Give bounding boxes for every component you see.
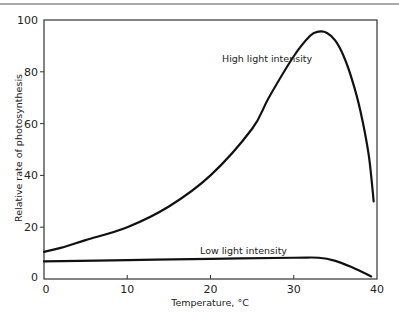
low-light-curve (44, 257, 371, 276)
x-tick-label: 10 (120, 283, 134, 296)
y-tick-label: 60 (24, 118, 38, 131)
plot-border (44, 20, 377, 279)
data-lines (44, 31, 374, 276)
photosynthesis-chart: 010203040020406080100 High light intensi… (0, 0, 399, 315)
low-light-label: Low light intensity (200, 245, 287, 256)
y-tick-label: 80 (24, 66, 38, 79)
y-tick-label: 40 (24, 169, 38, 182)
y-tick-label: 0 (31, 271, 38, 284)
high-light-curve (44, 31, 374, 251)
x-axis-label: Temperature, °C (170, 297, 249, 308)
plot-frame (44, 20, 377, 279)
x-tick-label: 30 (287, 283, 301, 296)
high-light-label: High light intensity (222, 53, 312, 64)
y-axis-label: Relative rate of photosynthesis (13, 74, 24, 222)
x-tick-label: 0 (43, 283, 50, 296)
x-tick-label: 40 (370, 283, 384, 296)
y-tick-label: 20 (24, 221, 38, 234)
y-tick-label: 100 (17, 14, 38, 27)
x-tick-label: 20 (204, 283, 218, 296)
